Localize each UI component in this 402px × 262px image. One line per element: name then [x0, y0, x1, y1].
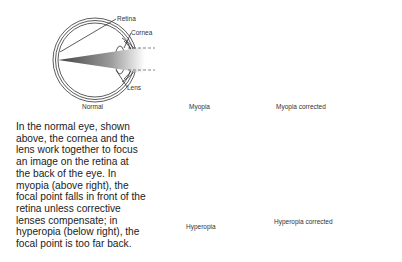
description-line: lens work together to focus: [16, 144, 166, 156]
description-line: focal point falls in front of the: [16, 191, 166, 203]
description-line: In the normal eye, shown: [16, 121, 166, 133]
description-text: In the normal eye, shown above, the corn…: [16, 121, 166, 250]
description-line: an image on the retina at: [16, 156, 166, 168]
description-line: the back of the eye. In: [16, 168, 166, 180]
description-line: above, the cornea and the: [16, 133, 166, 145]
caption-hyperopia: Hyperopia: [186, 223, 216, 230]
caption-normal: Normal: [82, 103, 103, 110]
description-line: myopia (above right), the: [16, 180, 166, 192]
description-line: hyperopia (below right), the: [16, 226, 166, 238]
description-line: focal point is too far back.: [16, 238, 166, 250]
callout-retina: Retina: [117, 15, 136, 22]
description-line: retina unless corrective: [16, 203, 166, 215]
caption-hyperopia-corrected: Hyperopia corrected: [274, 218, 333, 225]
callout-cornea: Cornea: [131, 29, 152, 36]
callout-lens: Lens: [127, 84, 141, 91]
caption-myopia-corrected: Myopia corrected: [276, 103, 326, 110]
caption-myopia: Myopia: [189, 103, 210, 110]
description-line: lenses compensate; in: [16, 215, 166, 227]
